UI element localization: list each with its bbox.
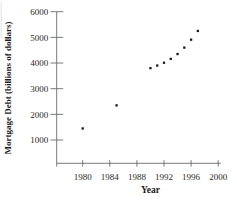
x-tick-label: 1984 <box>101 172 120 182</box>
y-tick-label: 5000 <box>30 33 49 43</box>
data-point <box>163 62 165 64</box>
y-axis-title: Mortgage Debt (billions of dollars) <box>3 22 13 155</box>
data-point <box>176 53 178 55</box>
x-tick-label: 1988 <box>128 172 147 182</box>
data-point <box>183 46 185 48</box>
data-point <box>82 127 84 129</box>
data-points <box>82 30 199 130</box>
data-point <box>170 58 172 60</box>
y-tick-label: 3000 <box>30 84 49 94</box>
y-tick-label: 4000 <box>30 58 49 68</box>
data-point <box>190 39 192 41</box>
x-tick-label: 2000 <box>209 172 228 182</box>
y-tick-label: 1000 <box>30 135 49 145</box>
x-tick-label: 1996 <box>182 172 201 182</box>
y-tick-label: 6000 <box>30 7 49 17</box>
data-point <box>115 104 117 106</box>
x-tick-label: 1992 <box>155 172 173 182</box>
y-tick-label: 2000 <box>30 110 49 120</box>
data-point <box>149 67 151 69</box>
scatter-chart: 100020003000400050006000 198019841988199… <box>0 0 237 204</box>
data-point <box>156 64 158 66</box>
data-point <box>197 30 199 32</box>
x-tick-label: 1980 <box>74 172 93 182</box>
x-axis-title: Year <box>141 185 161 195</box>
mortgage-debt-scatter-figure: 100020003000400050006000 198019841988199… <box>0 0 237 204</box>
y-axis-ticks: 100020003000400050006000 <box>30 7 63 145</box>
